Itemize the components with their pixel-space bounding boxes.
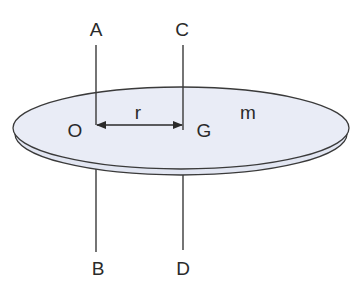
label-c: C — [175, 19, 189, 40]
label-o: O — [68, 120, 83, 141]
label-b: B — [92, 258, 105, 279]
label-a: A — [90, 19, 103, 40]
label-m: m — [240, 102, 256, 123]
label-d: D — [176, 258, 190, 279]
label-r: r — [135, 102, 142, 123]
disc-top-face — [13, 87, 349, 169]
disc-diagram: A C B D O G r m — [0, 0, 361, 284]
label-g: G — [197, 120, 212, 141]
